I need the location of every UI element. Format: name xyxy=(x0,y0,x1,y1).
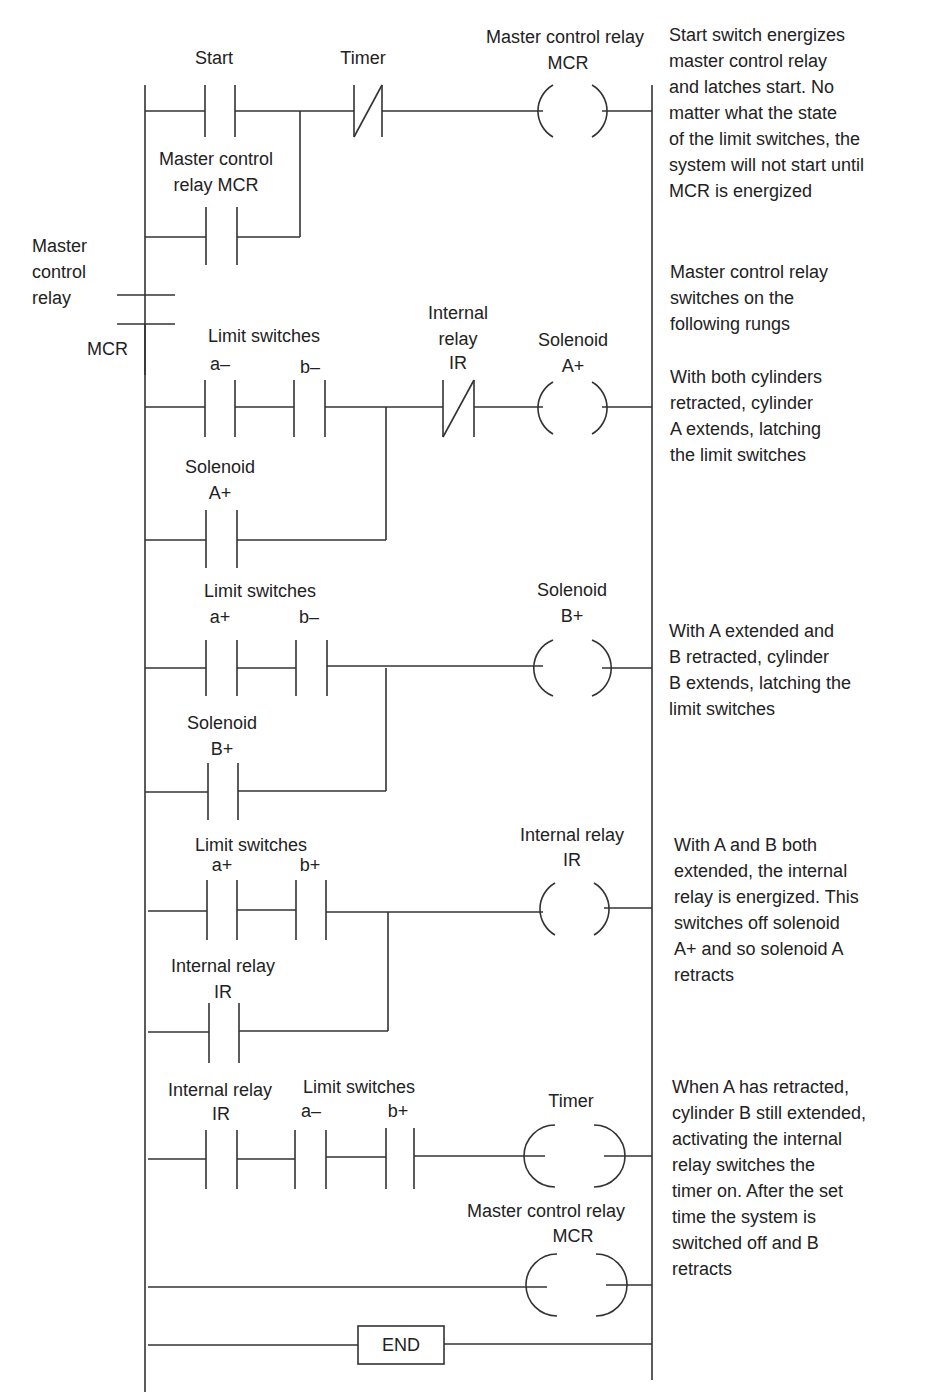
label-r2-ir-2: relay xyxy=(438,326,477,352)
label-r6-coil: Master control relay xyxy=(467,1198,625,1224)
mcr-coil xyxy=(538,85,607,137)
limit-b-plus-contact-2 xyxy=(386,1128,414,1189)
label-r2-branch-id: A+ xyxy=(209,480,232,506)
label-mcr-coil-id: MCR xyxy=(548,50,589,76)
ir-contact-no xyxy=(206,1130,237,1189)
note-rung-5: When A has retracted, cylinder B still e… xyxy=(672,1074,926,1282)
internal-relay-coil xyxy=(540,883,609,935)
ir-contact-nc xyxy=(443,380,474,437)
label-start: Start xyxy=(195,45,233,71)
label-mcr-coil: Master control relay xyxy=(486,24,644,50)
label-r4-branch-id: IR xyxy=(214,979,232,1005)
note-rung-1: Start switch energizes master control re… xyxy=(669,22,926,204)
limit-a-minus-contact xyxy=(205,380,235,437)
limit-a-minus-contact-2 xyxy=(295,1130,326,1189)
end-label: END xyxy=(358,1326,444,1364)
label-r5-a: a– xyxy=(301,1098,321,1124)
limit-a-plus-contact-2 xyxy=(207,880,237,940)
label-r3-coil: Solenoid xyxy=(537,577,607,603)
note-rung-3: With A extended and B retracted, cylinde… xyxy=(669,618,926,722)
ir-latch-contact xyxy=(209,1003,239,1063)
label-r3-limit: Limit switches xyxy=(204,578,316,604)
label-r3-branch-id: B+ xyxy=(211,736,234,762)
label-r2-coil-id: A+ xyxy=(562,353,585,379)
label-mcr-side-2: control xyxy=(32,259,86,285)
limit-b-plus-contact xyxy=(296,880,326,940)
solenoid-b-plus-latch-contact xyxy=(208,763,238,820)
limit-b-minus-contact-2 xyxy=(296,640,327,696)
note-rung-2: With both cylinders retracted, cylinder … xyxy=(670,364,926,468)
label-timer: Timer xyxy=(340,45,385,71)
label-r2-a: a– xyxy=(210,351,230,377)
solenoid-b-plus-coil xyxy=(534,640,611,696)
solenoid-a-plus-coil xyxy=(538,382,607,434)
label-r2-b: b– xyxy=(300,354,320,380)
label-r2-coil: Solenoid xyxy=(538,327,608,353)
label-r5-b: b+ xyxy=(388,1098,409,1124)
label-mcr-branch: Master control xyxy=(159,146,273,172)
mcr-latch-contact xyxy=(206,207,237,265)
timer-contact-nc xyxy=(354,85,382,137)
label-r3-b: b– xyxy=(299,604,319,630)
label-r6-coil-id: MCR xyxy=(553,1223,594,1249)
label-r3-branch: Solenoid xyxy=(187,710,257,736)
label-r5-limit: Limit switches xyxy=(303,1074,415,1100)
solenoid-a-plus-latch-contact xyxy=(206,510,237,568)
label-r2-limit: Limit switches xyxy=(208,323,320,349)
label-r3-a: a+ xyxy=(210,604,231,630)
mcr-rail-contact xyxy=(117,295,175,324)
label-mcr-side-1: Master xyxy=(32,233,87,259)
label-r5-ir: Internal relay xyxy=(168,1077,272,1103)
label-mcr-side-4: MCR xyxy=(87,336,128,362)
note-rung-4: With A and B both extended, the internal… xyxy=(674,832,926,988)
start-contact-no xyxy=(205,85,235,137)
label-r5-coil: Timer xyxy=(548,1088,593,1114)
label-r4-coil: Internal relay xyxy=(520,822,624,848)
label-r2-ir-1: Internal xyxy=(428,300,488,326)
label-r2-branch: Solenoid xyxy=(185,454,255,480)
label-r4-b: b+ xyxy=(300,852,321,878)
label-r3-coil-id: B+ xyxy=(561,603,584,629)
label-r5-ir-id: IR xyxy=(212,1101,230,1127)
label-r4-branch: Internal relay xyxy=(171,953,275,979)
limit-b-minus-contact xyxy=(294,380,325,437)
label-r4-a: a+ xyxy=(212,852,233,878)
limit-a-plus-contact xyxy=(206,640,237,696)
label-r2-ir-3: IR xyxy=(449,350,467,376)
label-mcr-branch-id: relay MCR xyxy=(173,172,258,198)
label-mcr-side-3: relay xyxy=(32,285,71,311)
label-r4-coil-id: IR xyxy=(563,847,581,873)
note-mcr: Master control relay switches on the fol… xyxy=(670,259,926,337)
